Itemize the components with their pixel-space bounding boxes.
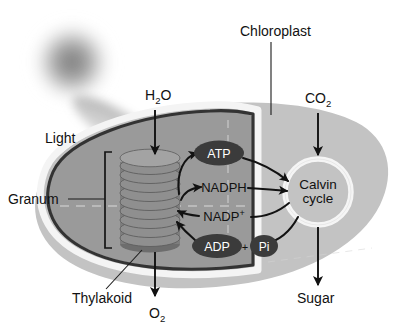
label-co2: CO2 (305, 90, 331, 109)
molecule-adp: ADP (192, 234, 242, 258)
sun-glow-icon (31, 21, 113, 103)
granum-stack (120, 149, 180, 252)
label-o2: O2 (149, 305, 165, 324)
adp-label: ADP (204, 240, 230, 254)
diagram-canvas: Calvin cycle ATP NADPH NADP+ ADP + (0, 0, 413, 325)
pi-label: Pi (259, 240, 270, 254)
adp-pi-plus-sign: + (242, 241, 248, 253)
o2-subscript: 2 (160, 313, 165, 324)
label-chloroplast: Chloroplast (240, 23, 311, 39)
chloroplast-diagram-svg: Calvin cycle ATP NADPH NADP+ ADP + (0, 0, 413, 325)
co2-text: CO (305, 90, 326, 106)
nadp-label: NADP+ (203, 208, 244, 224)
co2-subscript: 2 (326, 98, 331, 109)
molecule-pi: Pi (250, 235, 278, 257)
calvin-cycle-label-line1: Calvin (299, 177, 337, 192)
molecule-nadph: NADPH (201, 180, 247, 195)
label-h2o: H2O (145, 87, 171, 106)
h2o-tail: O (160, 87, 171, 103)
nadp-superscript: + (239, 208, 244, 218)
label-sugar: Sugar (297, 290, 335, 306)
molecule-atp: ATP (194, 141, 244, 166)
granum-disc-top (120, 149, 180, 167)
o2-text: O (149, 305, 160, 321)
label-thylakoid: Thylakoid (72, 290, 132, 306)
nadp-label-text: NADP (203, 209, 239, 224)
label-light: Light (45, 130, 75, 146)
molecule-nadp: NADP+ (203, 208, 244, 224)
calvin-cycle-label-line2: cycle (303, 191, 334, 206)
nadph-label: NADPH (201, 180, 247, 195)
h2o-text: H (145, 87, 155, 103)
label-granum: Granum (8, 191, 59, 207)
atp-label: ATP (207, 147, 230, 161)
